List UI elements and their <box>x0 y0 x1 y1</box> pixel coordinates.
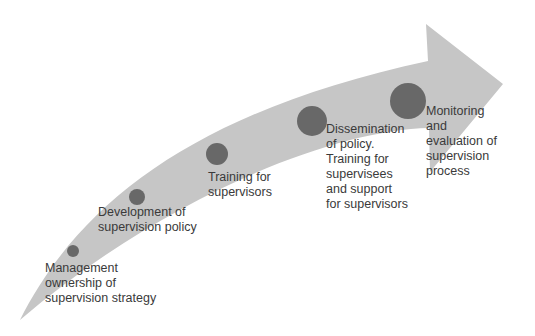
step-5-label: Monitoring and evaluation of supervision… <box>426 104 497 179</box>
step-5-marker-icon <box>390 83 426 119</box>
step-3-label: Training for supervisors <box>208 170 272 200</box>
step-4-marker-icon <box>297 106 327 136</box>
step-3-marker-icon <box>206 143 228 165</box>
step-2-marker-icon <box>129 189 145 205</box>
supervision-process-diagram: Management ownership of supervision stra… <box>0 0 535 336</box>
step-1-marker-icon <box>67 245 79 257</box>
step-2-label: Development of supervision policy <box>98 205 197 235</box>
step-4-label: Dissemination of policy. Training for su… <box>326 122 408 212</box>
step-1-label: Management ownership of supervision stra… <box>45 261 156 306</box>
